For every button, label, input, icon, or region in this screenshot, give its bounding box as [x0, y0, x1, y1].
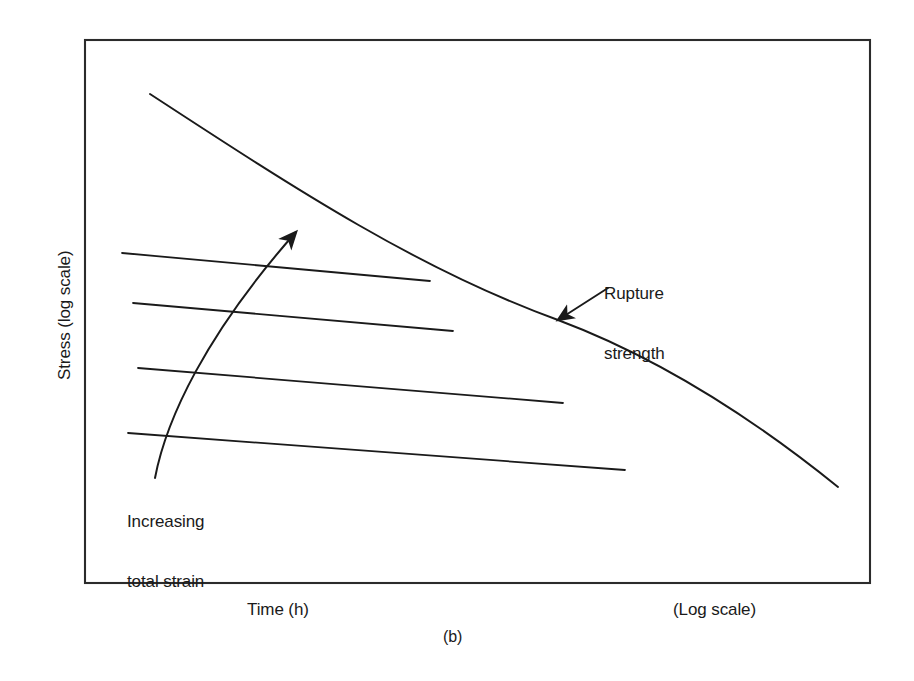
y-axis-label: Stress (log scale) [0, 0, 19, 60]
creep-diagram-figure: Stress (log scale) Time (h) (Log scale) … [0, 0, 914, 681]
x-axis-label: Time (h) [247, 600, 309, 620]
isostrain-line-2 [133, 303, 453, 331]
x-axis-scale-note: (Log scale) [673, 600, 756, 620]
strain-annotation-line-2: total strain [127, 572, 204, 592]
increasing-strain-annotation: Increasing total strain [127, 472, 204, 632]
isostrain-line-1 [122, 253, 430, 281]
strain-annotation-line-1: Increasing [127, 512, 204, 532]
y-axis-label-text: Stress (log scale) [55, 250, 75, 380]
rupture-annotation-line-2: strength [604, 344, 665, 364]
isostrain-line-3 [138, 368, 563, 403]
isostrain-line-4 [128, 433, 625, 470]
rupture-strength-annotation: Rupture strength [604, 244, 665, 404]
rupture-annotation-line-1: Rupture [604, 284, 665, 304]
rupture-strength-curve [150, 94, 838, 487]
figure-caption: (b) [443, 628, 462, 647]
rupture-leader-arrow [558, 288, 608, 320]
